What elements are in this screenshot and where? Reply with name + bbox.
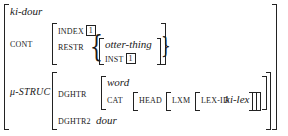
dghtr-type: word (107, 76, 129, 88)
outer-right-bracket (272, 4, 277, 130)
dghtr2-label: DGHTR2 (58, 117, 91, 126)
inst-label: INST (105, 55, 124, 64)
cat-left-bracket (133, 92, 138, 111)
mu-struc-label: μ-STRUC (10, 86, 50, 97)
lex-id-value: ki-lex (225, 93, 249, 105)
head-right-bracket (253, 92, 257, 111)
restr-label: RESTR (58, 43, 84, 52)
mu-struc-text: μ-STRUC (10, 86, 50, 97)
head-label: HEAD (139, 96, 162, 105)
cont-left-bracket (52, 23, 57, 65)
inst-feature: INST1 (105, 53, 136, 64)
index-label: INDEX (58, 27, 84, 36)
inst-tag: 1 (126, 53, 136, 64)
cat-right-bracket (257, 92, 261, 111)
head-left-bracket (166, 92, 171, 111)
lxm-right-bracket (249, 92, 253, 111)
outer-left-bracket (4, 4, 9, 130)
cat-label: CAT (107, 96, 123, 105)
restr-elem-left-bracket (99, 38, 104, 65)
cont-label: CONT (10, 40, 33, 49)
restr-set-close-brace: } (161, 31, 171, 61)
lxm-left-bracket (195, 92, 200, 111)
avm-type: ki-dour (10, 5, 42, 17)
dghtr-label: DGHTR (58, 90, 87, 99)
dghtr2-value: dour (96, 114, 117, 126)
restr-elem-type: otter-thing (105, 38, 152, 50)
dghtr-left-bracket (101, 76, 106, 110)
lxm-label: LXM (172, 96, 190, 105)
mu-struc-left-bracket (52, 72, 57, 130)
dghtr-right-bracket (262, 76, 267, 110)
